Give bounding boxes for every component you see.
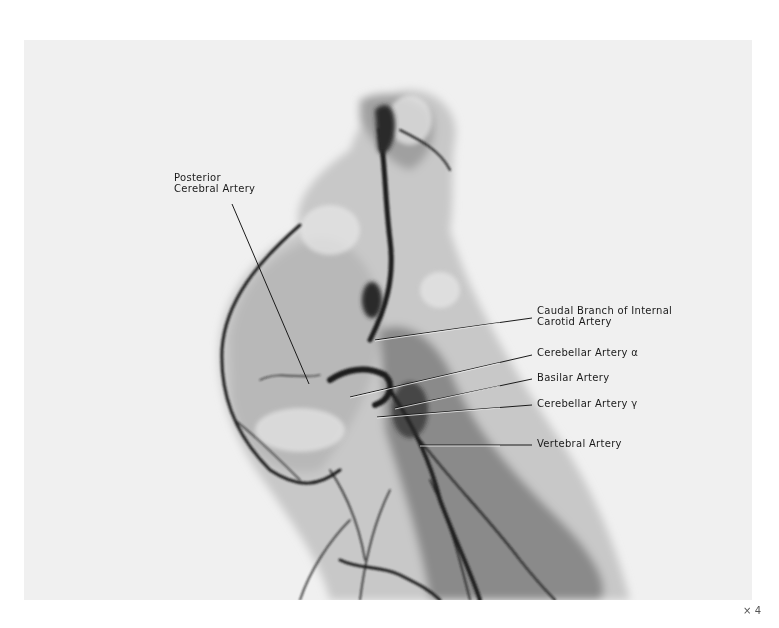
label-line: Cerebellar Artery γ [537,398,638,409]
leader-cerebellar-alpha [350,355,532,397]
label-posterior-cerebral-artery: Posterior Cerebral Artery [174,172,255,194]
label-line: Caudal Branch of Internal [537,305,672,316]
label-line: Cerebellar Artery α [537,347,638,358]
label-vertebral-artery: Vertebral Artery [537,438,622,449]
label-line: Carotid Artery [537,316,672,327]
label-line: Basilar Artery [537,372,609,383]
label-line: Vertebral Artery [537,438,622,449]
label-caudal-branch-internal-carotid: Caudal Branch of Internal Carotid Artery [537,305,672,327]
leader-basilar [395,379,532,408]
label-cerebellar-artery-alpha: Cerebellar Artery α [537,347,638,358]
label-line: Cerebral Artery [174,183,255,194]
label-line: Posterior [174,172,255,183]
label-cerebellar-artery-gamma: Cerebellar Artery γ [537,398,638,409]
magnification-label: × 4 [743,605,761,616]
leader-posterior-cerebral [232,204,309,384]
label-basilar-artery: Basilar Artery [537,372,609,383]
leader-caudal-branch [375,318,532,340]
